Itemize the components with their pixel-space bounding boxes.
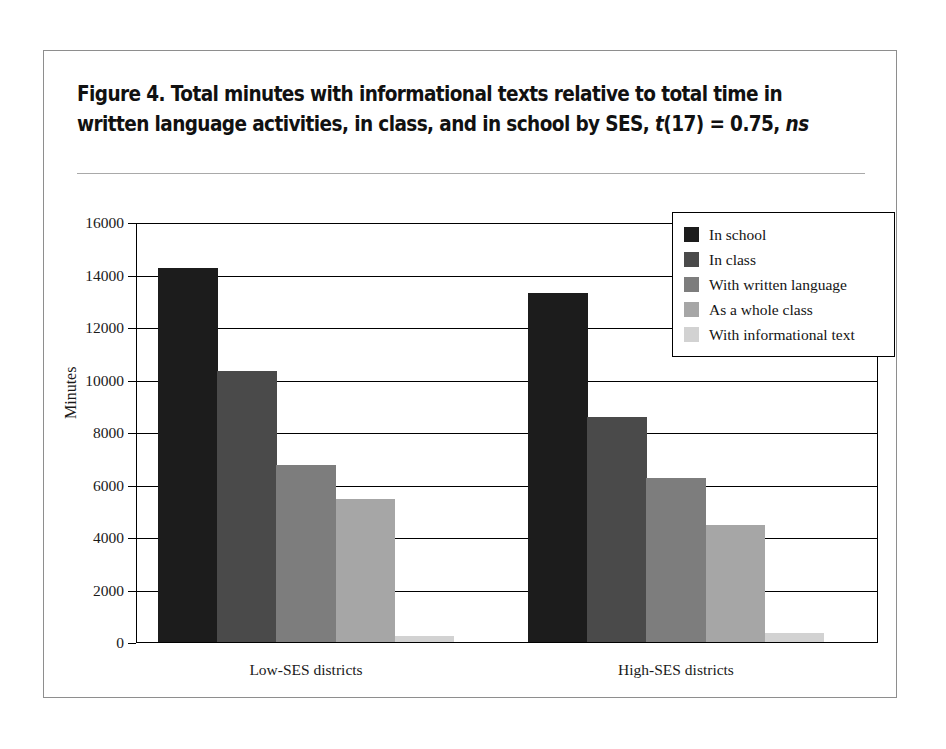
bar bbox=[276, 465, 336, 644]
y-axis-tick-label: 16000 bbox=[85, 214, 124, 232]
figure-container: Figure 4. Total minutes with information… bbox=[43, 50, 897, 698]
title-divider bbox=[77, 173, 865, 174]
bar bbox=[217, 371, 277, 643]
bar bbox=[646, 478, 706, 643]
y-axis-label: Minutes bbox=[62, 367, 80, 419]
legend-swatch-icon bbox=[684, 327, 699, 342]
title-text-a: written language activities, in class, a… bbox=[77, 111, 655, 136]
legend-swatch-icon bbox=[684, 277, 699, 292]
title-text-b: (17) = 0.75, bbox=[663, 111, 785, 136]
legend-item-label: As a whole class bbox=[709, 301, 813, 319]
chart-legend: In schoolIn classWith written languageAs… bbox=[672, 212, 895, 357]
y-axis-tick-mark bbox=[128, 486, 136, 487]
figure-title-line-1: Figure 4. Total minutes with information… bbox=[77, 79, 756, 109]
legend-item: With written language bbox=[684, 272, 884, 297]
y-axis-tick-mark bbox=[128, 643, 136, 644]
y-axis-tick-mark bbox=[128, 328, 136, 329]
legend-swatch-icon bbox=[684, 252, 699, 267]
legend-swatch-icon bbox=[684, 302, 699, 317]
title-ns: ns bbox=[786, 111, 809, 136]
y-axis-tick-label: 4000 bbox=[93, 529, 124, 547]
y-axis-tick-mark bbox=[128, 591, 136, 592]
figure-title: Figure 4. Total minutes with information… bbox=[77, 79, 867, 139]
legend-item-label: In school bbox=[709, 226, 766, 244]
legend-item: With informational text bbox=[684, 322, 884, 347]
y-axis-tick-label: 0 bbox=[116, 634, 124, 652]
y-axis-tick-mark bbox=[128, 538, 136, 539]
bar bbox=[158, 268, 218, 643]
legend-item: In class bbox=[684, 247, 884, 272]
x-axis-category-label: High-SES districts bbox=[528, 661, 824, 679]
y-axis-tick-label: 8000 bbox=[93, 424, 124, 442]
y-axis-tick-label: 12000 bbox=[85, 319, 124, 337]
y-axis-tick-label: 6000 bbox=[93, 477, 124, 495]
legend-item: In school bbox=[684, 222, 884, 247]
x-axis-category-label: Low-SES districts bbox=[158, 661, 454, 679]
legend-swatch-icon bbox=[684, 227, 699, 242]
bar bbox=[395, 636, 455, 643]
legend-item-label: With written language bbox=[709, 276, 847, 294]
bar bbox=[587, 417, 647, 643]
bar bbox=[765, 633, 825, 644]
y-axis-tick-mark bbox=[128, 223, 136, 224]
bar bbox=[528, 293, 588, 643]
y-axis-tick-label: 10000 bbox=[85, 372, 124, 390]
y-axis-tick-mark bbox=[128, 433, 136, 434]
legend-item: As a whole class bbox=[684, 297, 884, 322]
bar-group: Low-SES districts bbox=[158, 223, 454, 643]
legend-item-label: In class bbox=[709, 251, 756, 269]
legend-item-label: With informational text bbox=[709, 326, 855, 344]
title-t-statistic: t bbox=[655, 111, 663, 136]
y-axis-tick-mark bbox=[128, 276, 136, 277]
figure-title-line-2: written language activities, in class, a… bbox=[77, 109, 756, 139]
y-axis-tick-mark bbox=[128, 381, 136, 382]
y-axis-tick-label: 14000 bbox=[85, 267, 124, 285]
y-axis-tick-label: 2000 bbox=[93, 582, 124, 600]
bar bbox=[706, 525, 766, 643]
bar bbox=[336, 499, 396, 643]
